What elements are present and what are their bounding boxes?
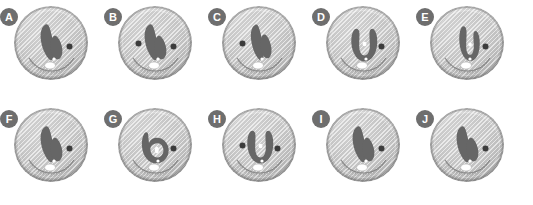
disc-contents [222, 108, 296, 182]
specimen-structure-loop-shape [142, 132, 169, 163]
panel-label-badge-g: G [104, 110, 122, 128]
specimen-dot-right [275, 146, 281, 152]
specimen-dot-right [67, 146, 73, 152]
panel-label-badge-c: C [208, 8, 226, 26]
specimen-panel-c: C [208, 0, 312, 102]
disc-contents [118, 108, 192, 182]
small-white-marker [260, 57, 263, 60]
white-ellipse-marker [461, 62, 472, 69]
specimen-panel-j: J [416, 102, 520, 204]
white-ellipse-marker [149, 164, 160, 171]
panel-label-badge-i: I [312, 110, 330, 128]
structure-lumen-highlight [155, 147, 159, 153]
specimen-panel-b: B [104, 0, 208, 102]
white-ellipse-marker [45, 164, 56, 171]
specimen-dot-right [483, 146, 489, 152]
white-ellipse-marker [45, 62, 56, 69]
small-white-marker [364, 57, 367, 60]
disc-contents [14, 108, 88, 182]
specimen-dot-right [171, 44, 177, 50]
specimen-panel-a: A [0, 0, 104, 102]
panel-label-badge-f: F [0, 110, 18, 128]
disc-contents [118, 6, 192, 80]
panel-label-badge-d: D [312, 8, 330, 26]
specimen-disc-c [222, 6, 296, 80]
disc-contents [326, 108, 400, 182]
small-white-marker [364, 159, 367, 162]
specimen-dot-left [136, 41, 142, 47]
disc-contents [326, 6, 400, 80]
white-ellipse-marker [461, 164, 472, 171]
specimen-panel-h: H [208, 102, 312, 204]
specimen-disc-j [430, 108, 504, 182]
small-white-marker [468, 57, 471, 60]
panel-label-badge-h: H [208, 110, 226, 128]
panel-label-badge-a: A [0, 8, 18, 26]
white-ellipse-marker [357, 62, 368, 69]
specimen-disc-g [118, 108, 192, 182]
specimen-panel-figure: ABCDEFGHIJ [0, 0, 533, 205]
small-white-marker [156, 159, 159, 162]
white-ellipse-marker [253, 62, 264, 69]
white-ellipse-marker [149, 62, 160, 69]
disc-contents [14, 6, 88, 80]
small-white-marker [468, 159, 471, 162]
structure-lumen-highlight [363, 42, 367, 46]
specimen-panel-e: E [416, 0, 520, 102]
white-ellipse-marker [253, 164, 264, 171]
specimen-dot-left [240, 143, 246, 149]
specimen-disc-i [326, 108, 400, 182]
specimen-dot-right [379, 146, 385, 152]
disc-contents [430, 6, 504, 80]
panel-label-badge-b: B [104, 8, 122, 26]
specimen-dot-right [171, 146, 177, 152]
specimen-panel-f: F [0, 102, 104, 204]
specimen-disc-f [14, 108, 88, 182]
specimen-disc-b [118, 6, 192, 80]
disc-contents [222, 6, 296, 80]
panel-label-badge-j: J [416, 110, 434, 128]
specimen-disc-h [222, 108, 296, 182]
small-white-marker [52, 159, 55, 162]
panel-label-badge-e: E [416, 8, 434, 26]
structure-lumen-highlight [259, 144, 263, 148]
specimen-panel-g: G [104, 102, 208, 204]
small-white-marker [52, 57, 55, 60]
specimen-panel-i: I [312, 102, 416, 204]
white-ellipse-marker [357, 164, 368, 171]
specimen-disc-a [14, 6, 88, 80]
disc-contents [430, 108, 504, 182]
specimen-dot-right [67, 44, 73, 50]
specimen-disc-d [326, 6, 400, 80]
specimen-panel-d: D [312, 0, 416, 102]
specimen-dot-left [240, 41, 246, 47]
small-white-marker [260, 159, 263, 162]
specimen-disc-e [430, 6, 504, 80]
small-white-marker [156, 57, 159, 60]
specimen-dot-right [379, 44, 385, 50]
specimen-dot-right [483, 44, 489, 50]
structure-lumen-highlight [468, 43, 472, 47]
